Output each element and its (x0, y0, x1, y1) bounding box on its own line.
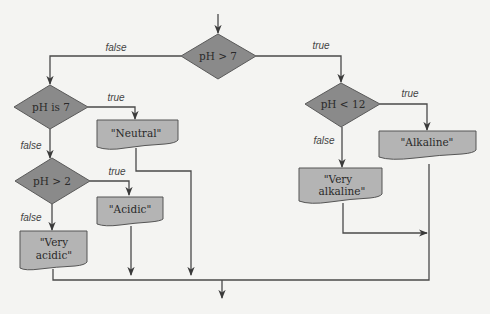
edge-label-true: true (107, 92, 125, 103)
decision-ph-is-7: pH is 7 (14, 85, 88, 129)
decision-ph-gt-2-label: pH > 2 (33, 175, 71, 187)
output-very-alkaline-label-2: alkaline" (319, 185, 366, 197)
edge-label-true: true (401, 88, 419, 99)
output-neutral-label: "Neutral" (111, 127, 162, 139)
edge-label-true: true (108, 166, 126, 177)
edge-label-true: true (312, 40, 330, 51)
output-very-alkaline: "Very alkaline" (299, 168, 382, 203)
decision-ph-lt-12-label: pH < 12 (321, 98, 366, 110)
output-alkaline-label: "Alkaline" (401, 136, 454, 148)
decision-ph-gt-7: pH > 7 (181, 34, 256, 79)
edge-label-false: false (105, 42, 127, 53)
decision-ph-is-7-label: pH is 7 (32, 101, 70, 113)
output-acidic-label: "Acidic" (109, 203, 151, 215)
edge-ph-lt-12-true (380, 104, 427, 130)
edge-ph-is-7-true (88, 107, 135, 119)
edge-label-false: false (20, 212, 42, 223)
output-neutral: "Neutral" (97, 120, 178, 149)
output-alkaline: "Alkaline" (379, 131, 476, 159)
output-very-acidic-label-2: acidic" (36, 249, 72, 261)
edge-ph-gt-7-false (50, 56, 181, 84)
output-very-acidic: "Very acidic" (20, 231, 87, 270)
output-acidic: "Acidic" (97, 197, 163, 226)
edge-ph-gt-7-true (256, 56, 341, 82)
edge-label-false: false (20, 140, 42, 151)
edge-label-false: false (313, 135, 335, 146)
edge-very-alkaline-merge (343, 203, 427, 233)
decision-ph-gt-2: pH > 2 (15, 158, 90, 204)
decision-ph-gt-7-label: pH > 7 (199, 50, 237, 62)
decision-ph-lt-12: pH < 12 (305, 83, 380, 127)
output-very-alkaline-label-1: "Very (324, 173, 353, 185)
flowchart: pH > 7 false true pH is 7 true "Neutral"… (0, 0, 490, 314)
output-very-acidic-label-1: "Very (40, 236, 69, 248)
edge-ph-gt-2-true (90, 181, 129, 195)
